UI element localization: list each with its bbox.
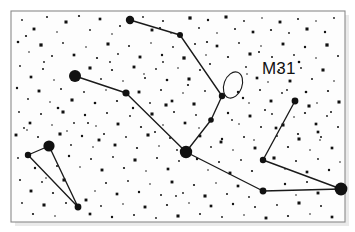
field-star <box>129 115 131 117</box>
field-star <box>21 19 23 21</box>
field-star <box>227 56 229 58</box>
field-star <box>30 76 33 79</box>
field-star <box>98 139 101 142</box>
field-star <box>139 56 142 59</box>
field-star <box>199 213 201 215</box>
field-star <box>187 77 190 80</box>
field-star <box>182 192 184 194</box>
field-star <box>242 97 244 99</box>
field-star <box>61 110 64 113</box>
field-star <box>162 61 164 63</box>
field-star <box>238 123 240 125</box>
field-star <box>198 27 200 29</box>
field-star <box>316 102 318 104</box>
field-star <box>94 190 96 192</box>
field-star <box>89 213 92 216</box>
field-star <box>161 54 163 56</box>
field-star <box>337 100 340 103</box>
field-star <box>150 42 152 44</box>
field-star <box>243 214 245 216</box>
field-star <box>105 182 107 184</box>
field-star <box>306 181 308 183</box>
bright-star-triangle-left <box>25 152 31 158</box>
field-star <box>254 147 257 150</box>
field-star <box>207 19 209 21</box>
field-star <box>231 119 233 121</box>
field-star <box>78 15 80 17</box>
field-star <box>54 215 56 217</box>
field-star <box>70 98 73 101</box>
field-star <box>309 213 311 215</box>
field-star <box>248 52 251 55</box>
field-star <box>85 199 88 202</box>
field-star <box>109 61 111 63</box>
field-star <box>333 17 335 19</box>
field-star <box>45 177 47 179</box>
field-star <box>232 203 234 205</box>
field-star <box>106 112 108 114</box>
field-star <box>243 136 245 138</box>
field-star <box>297 201 300 204</box>
field-star <box>249 115 252 118</box>
field-star <box>145 170 147 172</box>
field-star <box>166 79 169 82</box>
field-star <box>144 206 147 209</box>
field-star <box>133 158 136 161</box>
field-star <box>17 41 20 44</box>
field-star <box>70 144 72 146</box>
field-star <box>218 161 220 163</box>
field-star <box>256 77 259 80</box>
field-star <box>259 89 261 91</box>
field-star <box>149 102 151 104</box>
bright-star-delta-and <box>177 32 183 38</box>
field-star <box>276 204 278 206</box>
field-star <box>315 20 317 22</box>
field-star <box>62 42 64 44</box>
field-star <box>106 42 109 45</box>
field-star <box>166 204 168 206</box>
field-star <box>286 89 288 91</box>
field-star <box>287 215 289 217</box>
field-star <box>160 89 162 91</box>
field-star <box>305 91 308 94</box>
star-chart-figure: M31 <box>0 0 355 232</box>
field-star <box>248 196 250 198</box>
field-star <box>79 166 81 168</box>
field-star <box>156 157 158 159</box>
field-star <box>167 168 170 171</box>
field-star <box>339 161 341 163</box>
field-star <box>297 18 299 20</box>
object-label-m31: M31 <box>262 59 296 78</box>
field-star <box>94 102 97 105</box>
field-star <box>289 80 292 83</box>
field-star <box>87 122 89 124</box>
field-star <box>41 181 43 183</box>
field-star <box>116 100 118 102</box>
field-star <box>89 29 91 31</box>
field-star <box>209 63 211 65</box>
field-star <box>240 159 242 161</box>
field-star <box>210 146 212 148</box>
field-star <box>27 98 29 100</box>
field-star <box>260 45 262 47</box>
field-star <box>144 77 146 79</box>
bright-star-almach-mu <box>69 70 81 82</box>
field-star <box>149 183 151 185</box>
bright-star-nu-and <box>122 89 129 96</box>
bright-star-right-top <box>292 98 299 105</box>
field-star <box>140 126 142 128</box>
field-star <box>252 31 255 34</box>
field-star <box>320 205 322 207</box>
field-star <box>253 139 255 141</box>
field-star <box>73 122 75 124</box>
field-star <box>270 29 272 31</box>
field-star <box>176 214 179 217</box>
field-star <box>295 160 297 162</box>
field-star <box>138 191 140 193</box>
field-star <box>309 149 311 151</box>
field-star <box>210 205 213 208</box>
field-star <box>258 51 260 53</box>
field-star <box>271 113 273 115</box>
field-star <box>238 42 240 44</box>
field-star <box>160 194 162 196</box>
